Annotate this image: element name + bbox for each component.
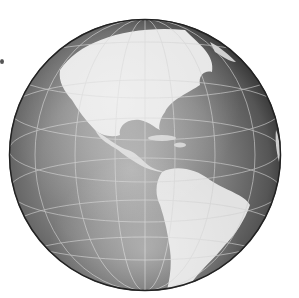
globe-image xyxy=(0,0,299,298)
globe-icon xyxy=(0,0,299,298)
stray-mark xyxy=(0,59,4,64)
